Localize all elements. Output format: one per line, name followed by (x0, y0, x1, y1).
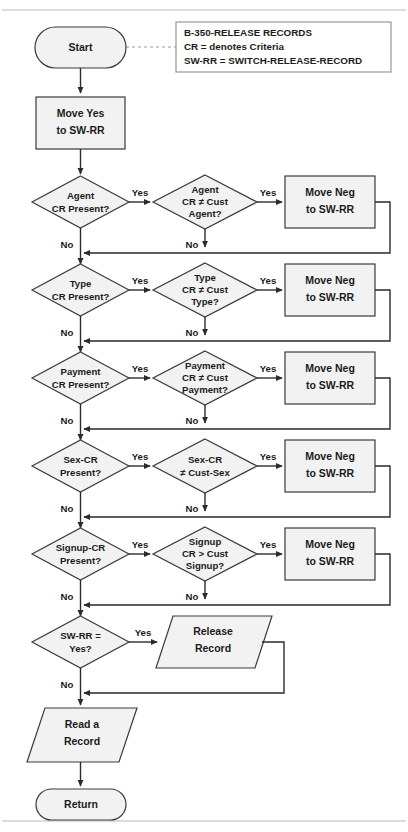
label-sw-rr-yes: Yes (135, 627, 152, 638)
io-read-record-line2: Record (64, 735, 100, 747)
decision-sw-rr-yes-line1: SW-RR = (60, 630, 101, 641)
process-type-move-neg-line1: Move Neg (305, 274, 355, 286)
flowchart-page: B-350-RELEASE RECORDS CR = denotes Crite… (0, 0, 408, 832)
decision-type-compare-line3: Type? (191, 296, 219, 307)
label-agent-left-yes: Yes (132, 187, 149, 198)
process-agent-move-neg-line1: Move Neg (305, 186, 355, 198)
process-sex-move-neg-line1: Move Neg (305, 450, 355, 462)
label-sex-left-yes: Yes (132, 451, 149, 462)
decision-signup-compare-line2: CR > Cust (182, 548, 229, 559)
process-agent-move-neg-line2: to SW-RR (306, 203, 355, 215)
decision-payment-present-line2: CR Present? (52, 379, 110, 390)
decision-signup-present-line2: Present? (60, 555, 101, 566)
decision-sw-rr-yes-line2: Yes? (69, 643, 92, 654)
label-type-mid-yes: Yes (260, 275, 277, 286)
flowchart-canvas: B-350-RELEASE RECORDS CR = denotes Crite… (0, 0, 408, 832)
label-sex-mid-no: No (186, 503, 199, 514)
node-return-label: Return (64, 798, 98, 810)
decision-signup-compare-line1: Signup (189, 536, 222, 547)
decision-agent-compare-line3: Agent? (188, 208, 221, 219)
legend-line-1: B-350-RELEASE RECORDS (184, 27, 312, 38)
row-sw-rr-check: SW-RR = Yes? Release Record Yes No (32, 616, 284, 705)
row-payment: Payment CR Present? Payment CR ≠ Cust Pa… (32, 351, 390, 440)
legend-line-2: CR = denotes Criteria (184, 41, 284, 52)
label-sex-left-no: No (61, 503, 74, 514)
label-sw-rr-no: No (61, 679, 74, 690)
process-payment-move-neg-line1: Move Neg (305, 362, 355, 374)
decision-agent-present-line2: CR Present? (52, 203, 110, 214)
decision-sex-compare-line2: ≠ Cust-Sex (180, 467, 230, 478)
label-type-left-no: No (61, 327, 74, 338)
label-type-mid-no: No (186, 327, 199, 338)
row-signup: Signup-CR Present? Signup CR > Cust Sign… (32, 527, 390, 616)
decision-payment-present-line1: Payment (61, 366, 102, 377)
label-payment-left-yes: Yes (132, 363, 149, 374)
label-signup-mid-yes: Yes (260, 539, 277, 550)
process-sex-move-neg-line2: to SW-RR (306, 467, 355, 479)
decision-agent-compare-line1: Agent (191, 184, 219, 195)
node-move-yes-line2: to SW-RR (56, 124, 105, 136)
label-signup-mid-no: No (186, 591, 199, 602)
row-sex: Sex-CR Present? Sex-CR ≠ Cust-Sex Move N… (32, 439, 390, 528)
process-signup-move-neg-line2: to SW-RR (306, 555, 355, 567)
decision-sex-compare-line1: Sex-CR (188, 454, 222, 465)
label-payment-mid-no: No (186, 415, 199, 426)
decision-type-compare-line1: Type (194, 272, 216, 283)
row-type: Type CR Present? Type CR ≠ Cust Type? Mo… (32, 263, 390, 352)
label-agent-left-no: No (61, 239, 74, 250)
io-release-record-line1: Release (193, 625, 233, 637)
label-signup-left-no: No (61, 591, 74, 602)
label-payment-left-no: No (61, 415, 74, 426)
io-read-record-line1: Read a (65, 718, 100, 730)
process-signup-move-neg-line1: Move Neg (305, 538, 355, 550)
io-release-record-line2: Record (195, 642, 231, 654)
decision-type-compare-line2: CR ≠ Cust (182, 284, 229, 295)
decision-sex-present-line2: Present? (60, 467, 101, 478)
decision-signup-present-line1: Signup-CR (56, 542, 106, 553)
decision-payment-compare-line2: CR ≠ Cust (182, 372, 229, 383)
decision-payment-compare-line1: Payment (185, 360, 226, 371)
decision-agent-compare-line2: CR ≠ Cust (182, 196, 229, 207)
label-signup-left-yes: Yes (132, 539, 149, 550)
node-move-yes-line1: Move Yes (57, 107, 105, 119)
decision-payment-compare-line3: Payment? (182, 384, 228, 395)
legend-line-3: SW-RR = SWITCH-RELEASE-RECORD (184, 55, 362, 66)
process-type-move-neg-line2: to SW-RR (306, 291, 355, 303)
decision-signup-compare-line3: Signup? (186, 560, 225, 571)
label-agent-mid-no: No (186, 239, 199, 250)
decision-sex-present-line1: Sex-CR (63, 454, 97, 465)
row-agent: Agent CR Present? Agent CR ≠ Cust Agent?… (32, 175, 390, 264)
decision-type-present-line2: CR Present? (52, 291, 110, 302)
label-sex-mid-yes: Yes (260, 451, 277, 462)
label-payment-mid-yes: Yes (260, 363, 277, 374)
decision-type-present-line1: Type (70, 278, 92, 289)
decision-agent-present-line1: Agent (67, 190, 95, 201)
label-type-left-yes: Yes (132, 275, 149, 286)
node-start-label: Start (69, 41, 93, 53)
label-agent-mid-yes: Yes (260, 187, 277, 198)
process-payment-move-neg-line2: to SW-RR (306, 379, 355, 391)
